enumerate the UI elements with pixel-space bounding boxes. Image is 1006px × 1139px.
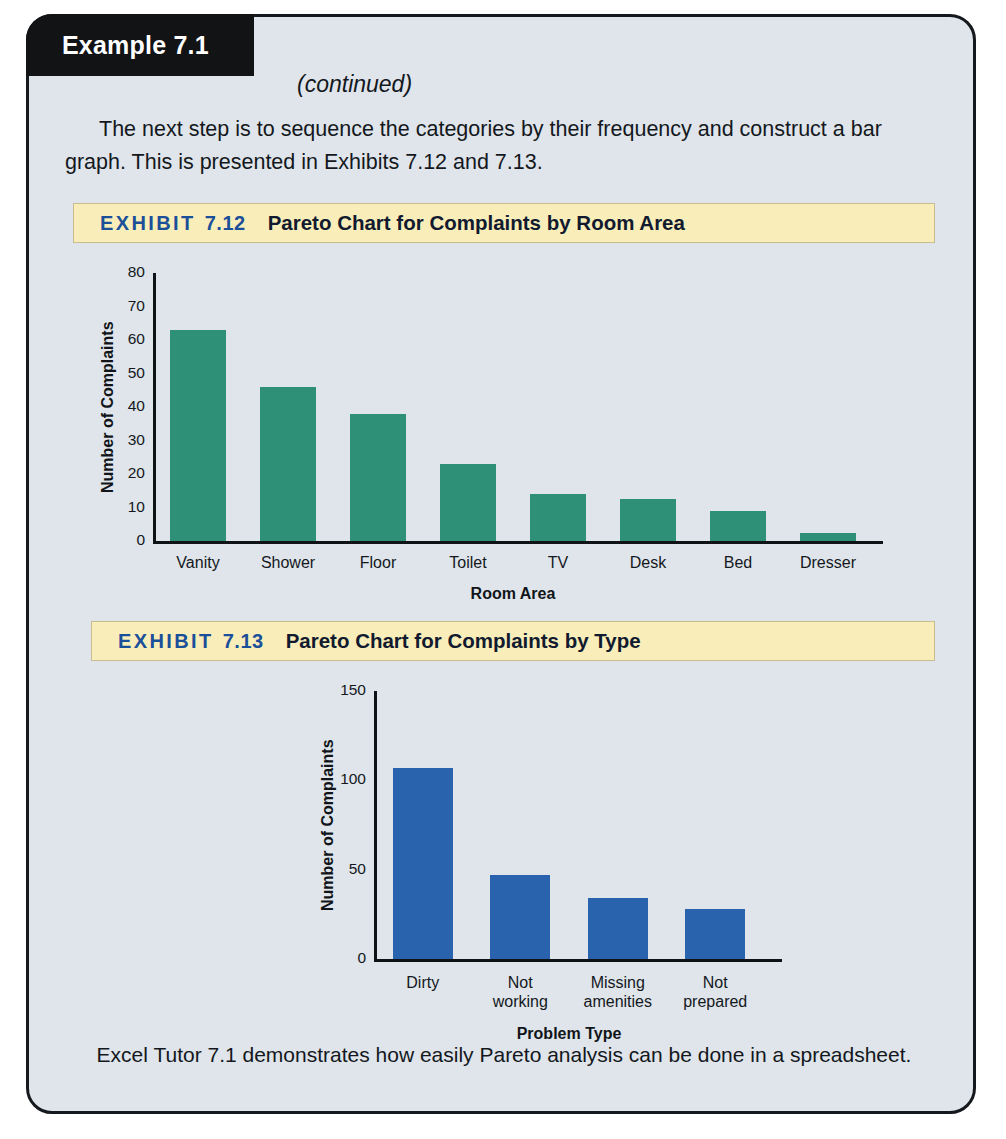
example-banner-label: Example 7.1 — [62, 31, 209, 60]
bar — [490, 875, 550, 959]
category-label: Dresser — [770, 553, 887, 572]
bar — [620, 499, 676, 541]
pareto-chart-problem-type: Number of Complaints Problem Type 050100… — [91, 669, 935, 1029]
x-axis-line — [153, 541, 883, 544]
y-tick-label: 0 — [105, 531, 145, 549]
bar — [260, 387, 316, 541]
bar — [685, 909, 745, 959]
y-tick-label: 100 — [326, 770, 366, 788]
chart2-x-axis-title: Problem Type — [374, 1025, 764, 1043]
exhibit-header-713: EXHIBIT 7.13 Pareto Chart for Complaints… — [91, 621, 935, 661]
y-tick-label: 50 — [326, 860, 366, 878]
chart2-y-axis-title: Number of Complaints — [319, 739, 337, 911]
y-tick-label: 80 — [105, 263, 145, 281]
chart1-plot-area — [153, 273, 873, 541]
bar — [710, 511, 766, 541]
y-tick-label: 0 — [326, 949, 366, 967]
exhibit-header-712: EXHIBIT 7.12 Pareto Chart for Complaints… — [73, 203, 935, 243]
y-tick-label: 10 — [105, 498, 145, 516]
y-tick-label: 20 — [105, 464, 145, 482]
bar — [800, 533, 856, 541]
bar — [440, 464, 496, 541]
bar — [530, 494, 586, 541]
pareto-chart-room-area: Number of Complaints Room Area 010203040… — [73, 253, 935, 605]
x-axis-line — [374, 959, 782, 962]
continued-label: (continued) — [297, 71, 412, 98]
category-label: Notprepared — [652, 973, 779, 1011]
y-axis-line — [374, 691, 377, 961]
exhibit-title: Pareto Chart for Complaints by Type — [286, 629, 641, 653]
footer-caption: Excel Tutor 7.1 demonstrates how easily … — [29, 1043, 979, 1067]
bar — [350, 414, 406, 541]
y-tick-label: 60 — [105, 330, 145, 348]
chart1-x-axis-title: Room Area — [153, 585, 873, 603]
bar — [170, 330, 226, 541]
y-axis-line — [153, 273, 156, 543]
y-tick-label: 50 — [105, 364, 145, 382]
exhibit-title: Pareto Chart for Complaints by Room Area — [268, 211, 685, 235]
y-tick-label: 150 — [326, 681, 366, 699]
bar — [588, 898, 648, 959]
y-tick-label: 30 — [105, 431, 145, 449]
example-banner: Example 7.1 — [26, 14, 254, 76]
y-tick-label: 40 — [105, 397, 145, 415]
chart2-plot-area — [374, 691, 764, 959]
y-tick-label: 70 — [105, 297, 145, 315]
exhibit-word: EXHIBIT — [100, 212, 196, 235]
exhibit-number: 7.13 — [223, 630, 264, 653]
intro-paragraph: The next step is to sequence the categor… — [65, 113, 945, 179]
exhibit-number: 7.12 — [205, 212, 246, 235]
exhibit-word: EXHIBIT — [118, 630, 214, 653]
bar — [393, 768, 453, 959]
example-box: Example 7.1 (continued) The next step is… — [26, 14, 976, 1114]
